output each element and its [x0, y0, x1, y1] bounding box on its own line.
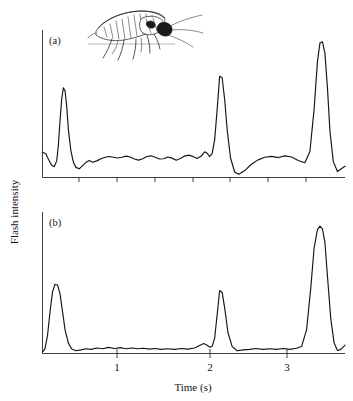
figure-container: Flash intensity: [0, 0, 353, 401]
y-axis-title: Flash intensity: [8, 179, 20, 244]
panel-b-trace: [43, 226, 346, 352]
flash-intensity-figure: Flash intensity: [0, 0, 353, 401]
panel-b: (b) 1 2 3: [43, 212, 346, 373]
x-axis-title: Time (s): [174, 381, 212, 394]
panel-b-x-tick-labels: 1 2 3: [114, 361, 290, 373]
firefly-line-drawing: [88, 11, 203, 60]
panel-a: (a): [43, 30, 346, 182]
panel-a-x-ticks: [79, 178, 306, 183]
x-tick-label-1: 1: [114, 361, 120, 373]
x-tick-label-2: 2: [207, 361, 213, 373]
panel-a-label: (a): [49, 35, 61, 47]
x-tick-label-3: 3: [284, 361, 290, 373]
panel-b-label: (b): [49, 217, 62, 229]
panel-a-trace: [43, 42, 346, 175]
y-axis-title-text: Flash intensity: [8, 179, 20, 244]
